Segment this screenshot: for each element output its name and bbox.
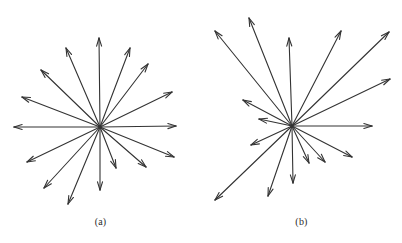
panel-b-caption: (b) — [201, 216, 402, 227]
panel-a-arrow-down-left-shallow — [27, 127, 100, 162]
panel-b-arrow-down-left-steep — [268, 126, 292, 196]
panel-a-arrow-down-right-mid — [100, 127, 146, 167]
panel-b-arrow-up-right-steep — [292, 31, 341, 126]
panel-a-arrow-left — [14, 124, 100, 129]
panel-a-arrow-up-left-shallow — [22, 97, 100, 127]
panel-a-arrow-up-right-mid — [100, 64, 148, 127]
figure-root: (a) (b) — [0, 0, 402, 243]
panel-b-arrow-up — [287, 38, 292, 126]
panel-a-arrow-up — [97, 38, 102, 127]
radial-vector-figure — [0, 0, 402, 243]
panel-a-caption: (a) — [0, 216, 201, 227]
panel-b-arrow-down — [290, 126, 295, 183]
panel-a-vector-star — [14, 38, 176, 204]
panel-b-arrow-up-right-mid — [292, 32, 389, 126]
panel-a-arrow-down-left-steep — [68, 127, 100, 204]
panel-b-arrow-up-left-steep — [249, 18, 292, 126]
panel-a-arrow-down-right-shallow — [100, 127, 174, 157]
panel-b-arrow-down-left-mid — [215, 126, 292, 200]
panel-b-arrow-right — [292, 123, 372, 128]
panel-b-arrow-down-left-shallow — [251, 126, 292, 145]
panel-a-arrow-down-right-steep — [100, 127, 116, 168]
panel-b-vector-star — [215, 18, 390, 200]
panel-b-arrow-up-left-shallow — [243, 100, 292, 126]
panel-b-arrow-up-left-mid — [215, 31, 292, 126]
panel-b-arrow-up-right-shallow — [292, 79, 390, 126]
panel-a-arrow-up-left-mid — [41, 70, 100, 127]
panel-a-arrow-down — [97, 127, 102, 190]
panel-a-arrow-up-left-steep — [66, 48, 100, 127]
panel-a-arrow-down-left-mid — [44, 127, 100, 188]
panel-b-arrow-down-right-steep — [292, 126, 309, 163]
panel-b-arrow-down-right-shallow — [292, 126, 352, 157]
panel-a-arrow-right — [100, 124, 176, 129]
